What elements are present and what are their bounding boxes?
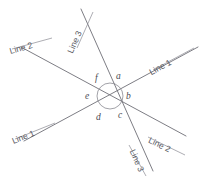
- angle-label-c: c: [118, 111, 122, 121]
- angle-label-d: d: [96, 113, 101, 123]
- angle-label-b: b: [126, 92, 131, 102]
- geometry-diagram: Line 3 Line 2 Line 1 Line 1 Line 2 Line …: [0, 0, 203, 180]
- angle-label-a: a: [116, 72, 121, 82]
- line-1-stroke: [24, 47, 198, 141]
- angle-arc-circle: [97, 83, 123, 109]
- line-3-stroke: [81, 9, 153, 171]
- angle-label-e: e: [85, 92, 89, 102]
- angle-label-f: f: [95, 74, 98, 84]
- geometry-canvas: [0, 0, 203, 180]
